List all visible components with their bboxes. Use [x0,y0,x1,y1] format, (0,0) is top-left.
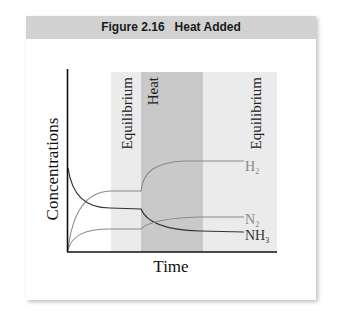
region-equilibrium-2 [203,72,277,252]
region-label-heat: Heat [145,76,161,105]
region-label-equilibrium-2: Equilibrium [248,77,264,150]
equilibrium-chart: Equilibrium Heat Equilibrium H2 N2 NH3 T… [0,0,344,311]
x-axis-title: Time [153,257,188,276]
y-axis-title: Concentrations [43,118,62,221]
region-label-equilibrium-1: Equilibrium [119,77,135,150]
